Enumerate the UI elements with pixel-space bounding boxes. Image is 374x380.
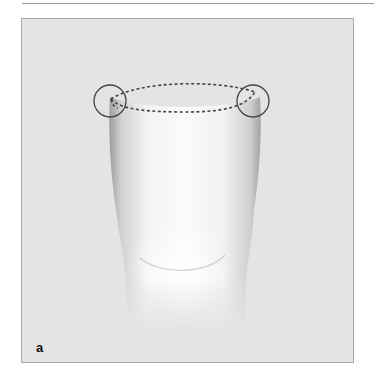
figure-illustration — [0, 0, 374, 380]
tooth-body — [109, 97, 261, 330]
panel-label: a — [36, 340, 43, 355]
